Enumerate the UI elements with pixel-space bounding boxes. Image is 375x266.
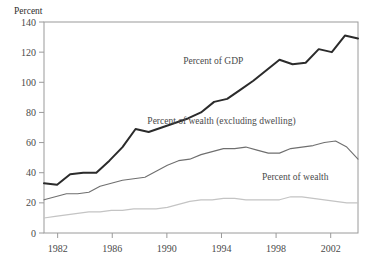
y-tick-label: 100	[21, 77, 36, 88]
series-line-percent-of-wealth	[44, 197, 358, 218]
x-tick-label: 1998	[266, 243, 286, 254]
y-tick-label: 80	[26, 107, 36, 118]
series-line-percent-of-wealth-excluding-dwelling	[44, 141, 358, 200]
x-tick-label: 1994	[211, 243, 231, 254]
y-tick-label: 60	[26, 137, 36, 148]
y-tick-label: 20	[26, 197, 36, 208]
y-tick-label: 0	[31, 228, 36, 239]
y-axis-unit-label: Percent	[14, 6, 43, 16]
x-tick-label: 1982	[48, 243, 68, 254]
x-tick-label: 2002	[321, 243, 341, 254]
chart-container: Percent 020406080100120140 1982198619901…	[0, 0, 375, 266]
x-tick-label: 1986	[102, 243, 122, 254]
y-axis-ticks: 020406080100120140	[21, 17, 44, 239]
x-axis-ticks: 198219861990199419982002	[48, 233, 341, 254]
y-tick-label: 120	[21, 47, 36, 58]
plot-area-frame	[44, 22, 358, 233]
x-tick-label: 1990	[157, 243, 177, 254]
series-annotation-wealth: Percent of wealth	[262, 172, 329, 182]
line-chart: Percent 020406080100120140 1982198619901…	[0, 0, 375, 266]
series-annotation-wealth-excluding-dwelling: Percent of wealth (excluding dwelling)	[147, 116, 295, 127]
y-tick-label: 140	[21, 17, 36, 28]
series-annotation-gdp: Percent of GDP	[183, 56, 243, 66]
y-tick-label: 40	[26, 167, 36, 178]
